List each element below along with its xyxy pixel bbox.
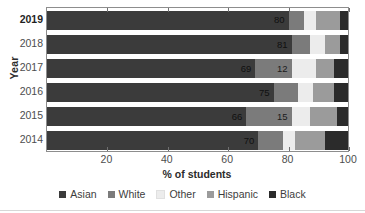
legend-swatch-icon	[59, 191, 66, 198]
bar-segment-hispanic	[295, 131, 325, 150]
legend-swatch-icon	[108, 191, 115, 198]
x-tick-mark	[107, 147, 108, 151]
x-tick-mark-top	[168, 8, 169, 12]
x-tick-mark-top	[289, 8, 290, 12]
legend-item-hispanic[interactable]: Hispanic	[207, 189, 258, 200]
bar-segment-black	[325, 131, 349, 150]
bar-segment-other	[310, 35, 325, 54]
bar-segment-other	[304, 11, 316, 30]
y-tick-2016: 2016	[3, 86, 43, 97]
bar-segment-white	[274, 83, 298, 102]
bar-row: 75	[47, 83, 348, 102]
bar-row: 81	[47, 35, 348, 54]
legend-label: Other	[169, 189, 195, 200]
legend-label: Black	[280, 189, 306, 200]
x-axis-tick-labels: 20406080100	[0, 154, 365, 168]
footer-divider	[0, 210, 365, 211]
bar-segment-hispanic	[316, 59, 334, 78]
bar-value-label: 15	[277, 112, 292, 122]
stacked-bar-chart-figure: Year 201920182017201620152014 8081691275…	[0, 0, 365, 213]
x-tick-40: 40	[147, 154, 187, 165]
bar-segment-hispanic	[316, 11, 340, 30]
legend-item-asian[interactable]: Asian	[59, 189, 96, 200]
bar-segment-asian: 70	[47, 131, 258, 150]
x-tick-mark	[289, 147, 290, 151]
legend-item-white[interactable]: White	[108, 189, 146, 200]
plot-area: 8081691275661570	[46, 7, 348, 152]
legend-swatch-icon	[207, 191, 214, 198]
x-tick-20: 20	[86, 154, 126, 165]
bar-value-label: 75	[259, 88, 274, 98]
x-tick-mark-top	[107, 8, 108, 12]
bar-segment-hispanic	[310, 107, 337, 126]
bar-segment-asian: 81	[47, 35, 292, 54]
x-axis-title: % of students	[46, 168, 348, 180]
bar-segment-white: 15	[246, 107, 291, 126]
plot-right-edge	[348, 7, 349, 152]
y-axis-tick-labels: 201920182017201620152014	[0, 7, 43, 152]
legend-label: White	[119, 189, 146, 200]
bar-value-label: 80	[274, 15, 289, 25]
bar-value-label: 70	[244, 136, 259, 146]
bar-segment-black	[334, 83, 349, 102]
x-tick-mark	[349, 147, 350, 151]
bar-value-label: 12	[277, 64, 292, 74]
bar-segment-asian: 66	[47, 107, 246, 126]
bar-segment-black	[334, 59, 349, 78]
bar-segment-other	[298, 83, 313, 102]
x-tick-mark	[168, 147, 169, 151]
x-tick-60: 60	[207, 154, 247, 165]
bar-segment-asian: 75	[47, 83, 274, 102]
bar-value-label: 66	[232, 112, 247, 122]
x-tick-100: 100	[328, 154, 365, 165]
x-tick-mark-top	[349, 8, 350, 12]
bar-segment-white	[258, 131, 282, 150]
y-tick-2019: 2019	[3, 14, 43, 25]
bar-segment-hispanic	[313, 83, 334, 102]
legend-swatch-icon	[156, 190, 165, 199]
bar-segment-asian: 80	[47, 11, 289, 30]
bar-segment-white: 12	[255, 59, 291, 78]
y-tick-2015: 2015	[3, 110, 43, 121]
legend-item-black[interactable]: Black	[269, 189, 306, 200]
bar-row: 70	[47, 131, 348, 150]
bar-segment-asian: 69	[47, 59, 255, 78]
y-tick-2017: 2017	[3, 62, 43, 73]
legend-label: Asian	[70, 189, 96, 200]
bar-value-label: 81	[277, 40, 292, 50]
bar-segment-hispanic	[325, 35, 340, 54]
bar-segment-white	[292, 35, 310, 54]
bar-row: 6615	[47, 107, 348, 126]
bar-value-label: 69	[241, 64, 256, 74]
bar-row: 80	[47, 11, 348, 30]
bar-segment-other	[292, 59, 316, 78]
y-tick-2018: 2018	[3, 38, 43, 49]
legend-item-other[interactable]: Other	[156, 189, 195, 200]
legend-swatch-icon	[269, 191, 276, 198]
bar-rows: 8081691275661570	[47, 8, 348, 151]
legend-label: Hispanic	[218, 189, 258, 200]
chart-legend: AsianWhiteOtherHispanicBlack	[0, 186, 365, 202]
x-tick-80: 80	[268, 154, 308, 165]
bar-segment-other	[292, 107, 310, 126]
x-tick-mark-top	[228, 8, 229, 12]
bar-row: 6912	[47, 59, 348, 78]
x-tick-mark	[228, 147, 229, 151]
y-tick-2014: 2014	[3, 134, 43, 145]
bar-segment-white	[289, 11, 304, 30]
